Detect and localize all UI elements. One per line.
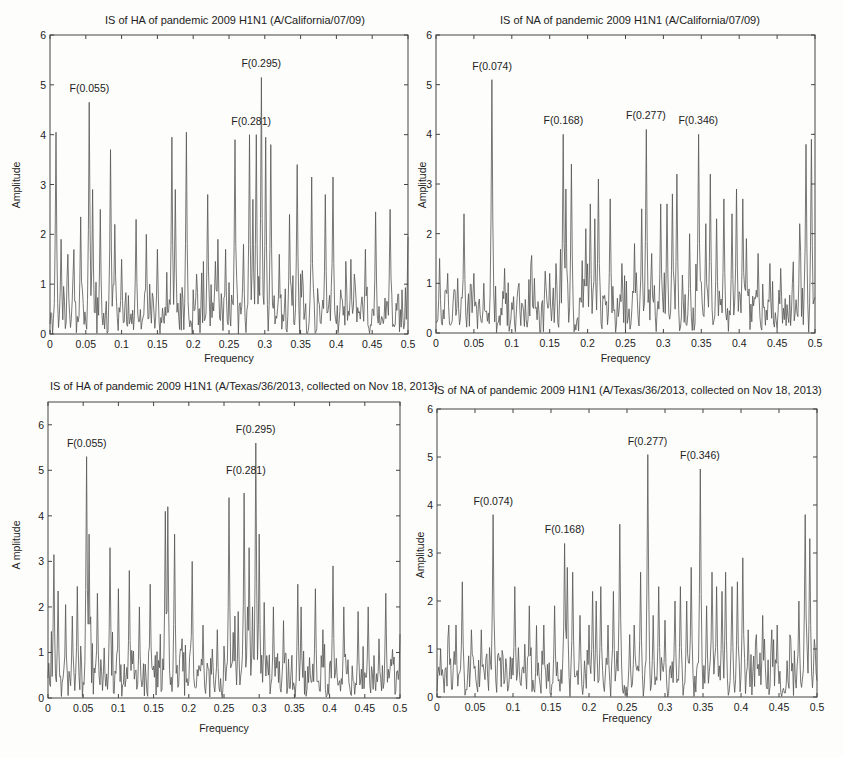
- x-tick-label: 0.5: [810, 701, 825, 713]
- x-tick-label: 0.45: [769, 701, 790, 713]
- x-tick-label: 0.2: [181, 702, 196, 714]
- x-tick-label: 0.15: [541, 701, 562, 713]
- x-tick-label: 0: [434, 701, 440, 713]
- y-axis-label: Amplitude: [10, 162, 22, 209]
- y-tick-label: 4: [427, 499, 433, 511]
- x-tick-label: 0.05: [465, 701, 486, 713]
- x-tick-label: 0.15: [143, 702, 164, 714]
- x-tick-label: 0.45: [355, 702, 376, 714]
- y-tick-label: 6: [426, 29, 432, 41]
- x-tick-label: 0.05: [464, 337, 485, 349]
- peak-annotation: F(0.346): [678, 114, 718, 126]
- y-tick-label: 3: [40, 179, 46, 191]
- x-tick-label: 0: [45, 702, 51, 714]
- x-tick-label: 0.2: [582, 701, 597, 713]
- x-axis-label: Frequency: [602, 712, 652, 724]
- y-tick-label: 6: [427, 403, 433, 415]
- x-tick-label: 0.3: [257, 338, 272, 350]
- chart-ha-california: IS of HA of pandemic 2009 H1N1 (A/Califo…: [0, 0, 420, 370]
- x-tick-label: 0.25: [615, 337, 636, 349]
- x-tick-label: 0.35: [693, 701, 714, 713]
- x-tick-label: 0.5: [393, 702, 408, 714]
- x-tick-label: 0.25: [214, 702, 235, 714]
- y-tick-label: 1: [40, 278, 46, 290]
- x-tick-label: 0.15: [147, 338, 168, 350]
- peak-annotation: F(0.295): [236, 423, 276, 435]
- x-tick-label: 0.45: [767, 337, 788, 349]
- peak-annotation: F(0.277): [626, 109, 666, 121]
- chart-plot: 00.050.10.150.20.250.30.350.40.450.50123…: [420, 370, 843, 757]
- peak-annotation: F(0.055): [67, 437, 107, 449]
- chart-ha-texas: IS of HA of pandemic 2009 H1N1 (A/Texas/…: [0, 370, 425, 757]
- peak-annotation: F(0.281): [231, 115, 271, 127]
- y-tick-label: 4: [426, 128, 432, 140]
- x-tick-label: 0.4: [732, 337, 747, 349]
- chart-plot: 00.050.10.150.20.250.30.350.40.450.50123…: [420, 0, 843, 370]
- x-tick-label: 0.4: [322, 702, 337, 714]
- y-tick-label: 4: [40, 129, 46, 141]
- peak-annotation: F(0.074): [473, 495, 513, 507]
- x-tick-label: 0.05: [76, 338, 97, 350]
- y-tick-label: 3: [426, 178, 432, 190]
- peak-annotation: F(0.074): [472, 60, 512, 72]
- x-tick-label: 0.35: [691, 337, 712, 349]
- y-tick-label: 0: [38, 692, 44, 704]
- peak-annotation: F(0.295): [241, 57, 281, 69]
- x-axis-label: Frequency: [199, 722, 249, 734]
- y-tick-label: 2: [427, 595, 433, 607]
- y-tick-label: 4: [38, 510, 44, 522]
- x-tick-label: 0: [47, 338, 53, 350]
- peak-annotation: F(0.346): [680, 449, 720, 461]
- y-tick-label: 5: [38, 464, 44, 476]
- x-tick-label: 0.3: [252, 702, 267, 714]
- x-axis-label: Frequency: [601, 352, 651, 364]
- x-axis-label: Frequency: [204, 352, 254, 364]
- x-tick-label: 0.2: [186, 338, 201, 350]
- y-tick-label: 2: [426, 228, 432, 240]
- x-tick-label: 0.4: [734, 701, 749, 713]
- x-tick-label: 0.05: [73, 702, 94, 714]
- y-tick-label: 0: [427, 691, 433, 703]
- y-tick-label: 2: [40, 228, 46, 240]
- chart-na-california: IS of NA of pandemic 2009 H1N1 (A/Califo…: [420, 0, 843, 370]
- peak-annotation: F(0.281): [226, 464, 266, 476]
- y-tick-label: 0: [426, 327, 432, 339]
- chart-title: IS of NA of pandemic 2009 H1N1 (A/Texas/…: [434, 384, 822, 396]
- x-tick-label: 0.3: [658, 701, 673, 713]
- x-tick-label: 0.35: [284, 702, 305, 714]
- y-tick-label: 6: [38, 419, 44, 431]
- x-tick-label: 0: [433, 337, 439, 349]
- y-tick-label: 3: [38, 555, 44, 567]
- x-tick-label: 0.1: [111, 702, 126, 714]
- x-tick-label: 0.35: [290, 338, 311, 350]
- peak-annotation: F(0.277): [628, 435, 668, 447]
- chart-plot: 00.050.10.150.20.250.30.350.40.450.50123…: [0, 370, 425, 757]
- y-tick-label: 1: [427, 643, 433, 655]
- y-tick-label: 1: [38, 646, 44, 658]
- x-tick-label: 0.5: [808, 337, 823, 349]
- peak-annotation: F(0.168): [545, 523, 585, 535]
- amplitude-trace: [48, 443, 400, 698]
- peak-annotation: F(0.168): [544, 114, 584, 126]
- x-tick-label: 0.1: [506, 701, 521, 713]
- y-tick-label: 5: [40, 79, 46, 91]
- x-tick-label: 0.25: [219, 338, 240, 350]
- y-tick-label: 1: [426, 277, 432, 289]
- x-tick-label: 0.45: [362, 338, 383, 350]
- x-tick-label: 0.15: [539, 337, 560, 349]
- y-tick-label: 5: [426, 79, 432, 91]
- chart-na-texas: IS of NA of pandemic 2009 H1N1 (A/Texas/…: [420, 370, 843, 757]
- y-axis-label: A mplitude: [10, 520, 22, 569]
- y-tick-label: 5: [427, 451, 433, 463]
- chart-title: IS of NA of pandemic 2009 H1N1 (A/Califo…: [500, 14, 760, 26]
- x-tick-label: 0.1: [114, 338, 129, 350]
- chart-title: IS of HA of pandemic 2009 H1N1 (A/Texas/…: [50, 380, 438, 392]
- y-tick-label: 3: [427, 547, 433, 559]
- x-tick-label: 0.1: [504, 337, 519, 349]
- x-tick-label: 0.2: [580, 337, 595, 349]
- x-tick-label: 0.5: [401, 338, 416, 350]
- y-tick-label: 6: [40, 29, 46, 41]
- chart-plot: 00.050.10.150.20.250.30.350.40.450.50123…: [0, 0, 420, 370]
- x-tick-label: 0.4: [329, 338, 344, 350]
- y-tick-label: 0: [40, 328, 46, 340]
